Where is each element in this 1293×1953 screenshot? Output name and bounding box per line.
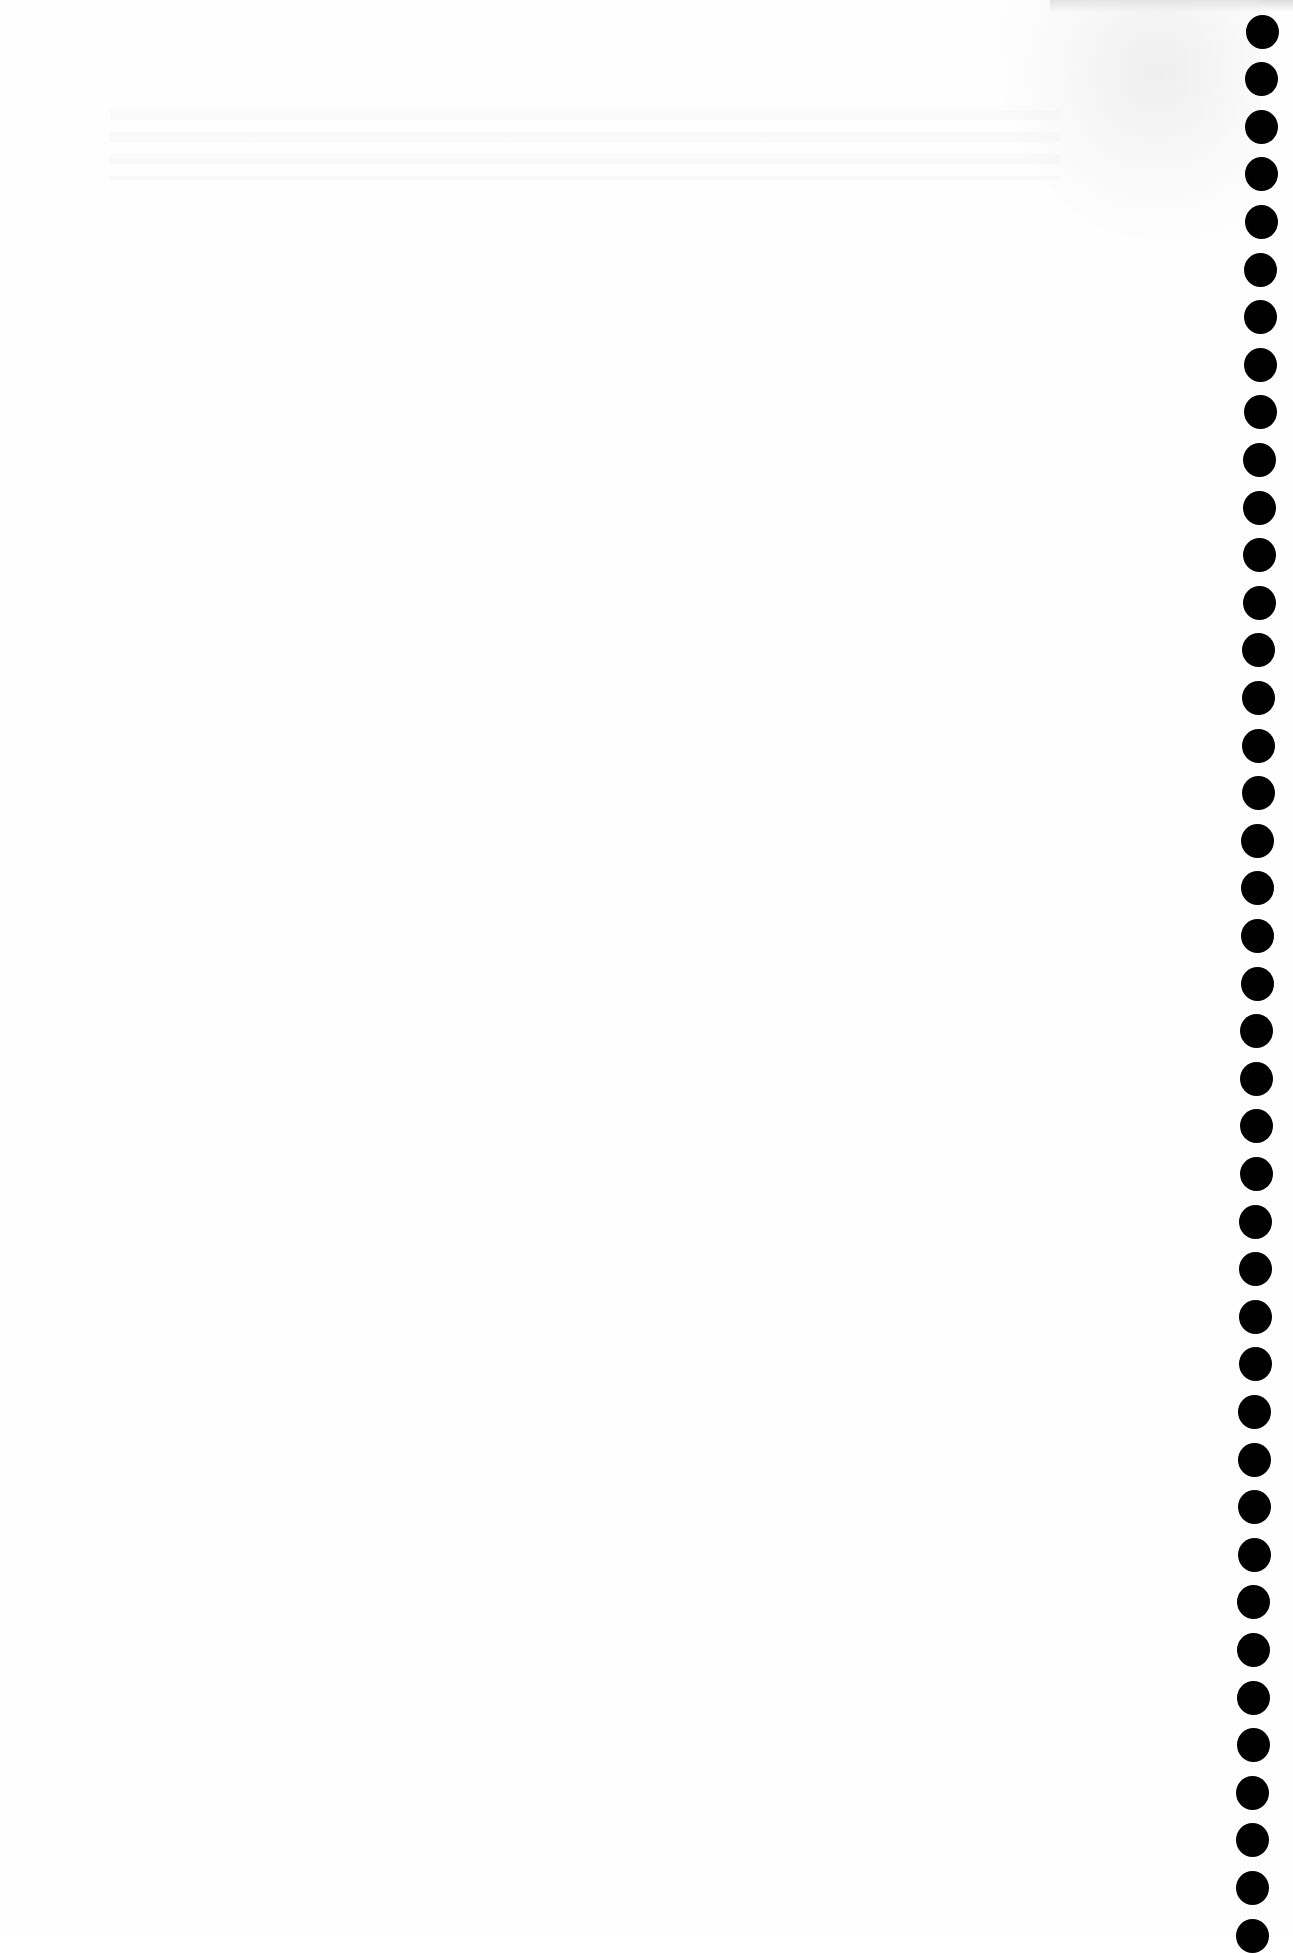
binding-hole [1239,1205,1272,1239]
binding-hole [1241,824,1274,858]
binding-hole [1238,1490,1271,1524]
binding-hole [1240,1014,1273,1048]
binding-hole [1242,729,1275,763]
binding-hole [1244,253,1277,287]
binding-hole [1236,1823,1269,1857]
binding-hole [1241,919,1274,953]
binding-hole [1236,1776,1269,1810]
binding-hole [1245,205,1278,239]
binding-hole [1240,1109,1273,1143]
binding-hole [1242,776,1275,810]
binding-hole [1236,1871,1269,1905]
bleed-through-text [110,110,1060,180]
binding-holes-column [1233,0,1293,1931]
binding-hole [1245,110,1278,144]
binding-hole [1243,491,1276,525]
binding-hole [1236,1919,1269,1953]
binding-hole [1238,1395,1271,1429]
binding-hole [1245,157,1278,191]
binding-hole [1243,586,1276,620]
binding-hole [1241,871,1274,905]
binding-hole [1238,1443,1271,1477]
binding-hole [1237,1585,1270,1619]
binding-hole [1239,1347,1272,1381]
binding-hole [1246,15,1279,49]
binding-hole [1242,633,1275,667]
binding-hole [1244,300,1277,334]
binding-hole [1240,1157,1273,1191]
binding-hole [1245,62,1278,96]
binding-hole [1244,348,1277,382]
binding-hole [1238,1538,1271,1572]
binding-hole [1244,395,1277,429]
binding-hole [1240,1062,1273,1096]
binding-hole [1237,1633,1270,1667]
binding-hole [1237,1728,1270,1762]
binding-hole [1239,1252,1272,1286]
binding-hole [1237,1681,1270,1715]
binding-hole [1239,1300,1272,1334]
binding-hole [1242,681,1275,715]
binding-hole [1243,443,1276,477]
binding-hole [1243,538,1276,572]
binding-hole [1241,967,1274,1001]
